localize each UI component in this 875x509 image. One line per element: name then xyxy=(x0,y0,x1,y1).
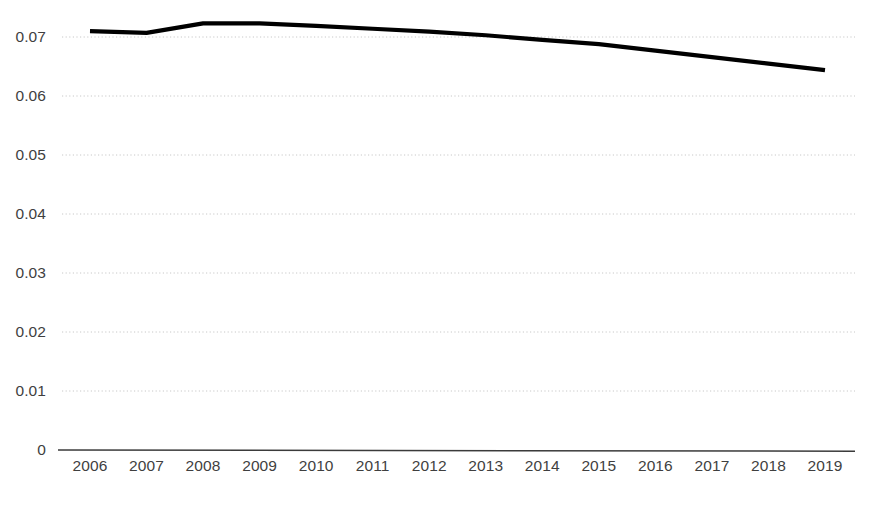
x-tick-label: 2018 xyxy=(751,458,786,474)
y-tick-label: 0.03 xyxy=(0,265,46,281)
x-axis-line xyxy=(58,450,855,451)
y-tick-label: 0.06 xyxy=(0,88,46,104)
y-tick-label: 0.01 xyxy=(0,383,46,399)
x-tick-label: 2010 xyxy=(299,458,334,474)
y-tick-label: 0.04 xyxy=(0,206,46,222)
y-tick-label: 0.02 xyxy=(0,324,46,340)
x-tick-label: 2006 xyxy=(73,458,108,474)
y-tick-label: 0 xyxy=(0,442,46,458)
x-tick-label: 2008 xyxy=(186,458,221,474)
line-chart: 00.010.020.030.040.050.060.07 2006200720… xyxy=(0,0,875,509)
x-tick-label: 2009 xyxy=(242,458,277,474)
x-axis-line-group xyxy=(58,450,855,451)
x-tick-label: 2015 xyxy=(581,458,616,474)
x-tick-label: 2007 xyxy=(129,458,164,474)
gridlines-group xyxy=(62,37,855,391)
x-tick-label: 2019 xyxy=(808,458,843,474)
y-tick-label: 0.07 xyxy=(0,29,46,45)
x-tick-label: 2012 xyxy=(412,458,447,474)
x-tick-label: 2014 xyxy=(525,458,560,474)
data-line xyxy=(90,23,825,70)
x-tick-label: 2017 xyxy=(694,458,729,474)
data-series-group xyxy=(90,23,825,70)
x-tick-label: 2013 xyxy=(468,458,503,474)
x-tick-label: 2016 xyxy=(638,458,673,474)
chart-plot-area xyxy=(0,0,875,509)
x-tick-label: 2011 xyxy=(356,458,390,474)
y-tick-label: 0.05 xyxy=(0,147,46,163)
